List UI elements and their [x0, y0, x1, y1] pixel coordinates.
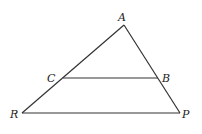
segment-AP — [124, 25, 180, 113]
label-B: B — [161, 72, 170, 85]
label-R: R — [9, 108, 18, 121]
segment-AR — [22, 25, 124, 113]
label-A: A — [117, 11, 126, 24]
label-C: C — [47, 72, 56, 85]
triangle-diagram: A B C R P — [0, 0, 202, 134]
label-P: P — [181, 108, 190, 121]
